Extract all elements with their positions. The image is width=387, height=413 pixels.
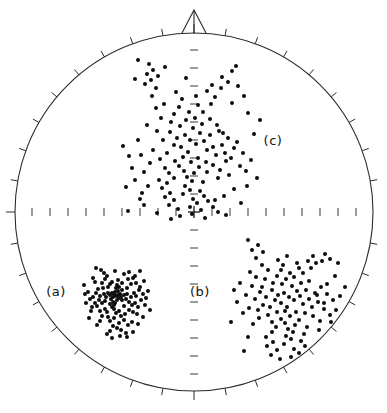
data-point <box>184 118 188 122</box>
data-point <box>121 144 125 148</box>
data-point <box>196 103 200 107</box>
outer-tick <box>284 51 288 57</box>
data-point <box>94 291 98 295</box>
data-point <box>82 283 86 287</box>
data-point <box>236 84 240 88</box>
stereonet-plot-canvas: (a) (b) (c) <box>0 0 387 413</box>
data-point <box>172 198 176 202</box>
data-point <box>301 302 305 306</box>
data-point <box>302 332 306 336</box>
data-point <box>309 266 313 270</box>
data-point <box>284 334 288 338</box>
data-point <box>288 314 292 318</box>
data-point <box>120 298 124 302</box>
outer-tick <box>130 380 132 387</box>
data-point <box>283 321 287 325</box>
outer-tick <box>370 243 377 244</box>
data-point <box>188 188 192 192</box>
data-point <box>251 322 255 326</box>
data-point <box>279 317 283 321</box>
outer-tick <box>255 37 257 44</box>
data-point <box>333 274 337 278</box>
data-point <box>282 291 286 295</box>
data-point <box>232 146 236 150</box>
data-point <box>328 313 332 317</box>
data-point <box>126 209 130 213</box>
outer-tick <box>11 180 18 181</box>
outer-tick <box>309 70 314 75</box>
data-point <box>151 148 155 152</box>
data-point <box>159 116 163 120</box>
data-point <box>111 324 115 328</box>
data-point <box>129 295 133 299</box>
data-point <box>211 145 215 149</box>
data-point <box>266 313 270 317</box>
data-point <box>197 165 201 169</box>
outer-tick <box>225 388 226 395</box>
data-point <box>298 294 302 298</box>
data-point <box>297 266 301 270</box>
data-point <box>172 143 176 147</box>
data-point <box>176 207 180 211</box>
data-point <box>169 120 173 124</box>
outer-tick <box>331 327 336 332</box>
data-point <box>90 305 94 309</box>
data-point <box>134 281 138 285</box>
data-point <box>205 89 209 93</box>
data-point <box>303 311 307 315</box>
data-point <box>188 138 192 142</box>
data-point <box>126 323 130 327</box>
data-point <box>129 282 133 286</box>
data-point <box>89 309 93 313</box>
data-point <box>208 133 212 137</box>
data-point <box>258 290 262 294</box>
data-point <box>250 284 254 288</box>
data-point <box>102 292 106 296</box>
outer-tick <box>331 92 336 97</box>
data-point <box>334 308 338 312</box>
data-point <box>294 310 298 314</box>
data-point <box>123 312 127 316</box>
data-point <box>148 161 152 165</box>
data-point <box>331 298 335 302</box>
outer-tick <box>255 380 257 387</box>
data-point <box>209 102 213 106</box>
data-point <box>328 257 332 261</box>
data-point <box>255 176 259 180</box>
data-point <box>110 336 114 340</box>
data-point <box>154 86 158 90</box>
data-point <box>224 213 228 217</box>
data-point <box>278 357 282 361</box>
data-point <box>226 136 230 140</box>
data-point <box>112 307 116 311</box>
data-point <box>102 271 106 275</box>
data-point <box>261 250 265 254</box>
data-point <box>187 110 191 114</box>
data-point <box>325 282 329 286</box>
data-point <box>276 293 280 297</box>
data-point <box>270 330 274 334</box>
outer-tick <box>225 29 226 36</box>
data-point <box>224 159 228 163</box>
data-point <box>289 337 293 341</box>
data-point <box>127 154 131 158</box>
data-point <box>258 118 262 122</box>
data-point <box>311 254 315 258</box>
data-point <box>160 186 164 190</box>
data-point <box>285 254 289 258</box>
data-point <box>120 281 124 285</box>
data-point <box>186 150 190 154</box>
outer-tick <box>162 29 163 36</box>
data-point <box>275 348 279 352</box>
data-point <box>175 136 179 140</box>
data-point <box>191 126 195 130</box>
data-point <box>239 201 243 205</box>
data-point <box>133 77 137 81</box>
data-point <box>274 325 278 329</box>
data-point <box>163 65 167 69</box>
data-point <box>242 94 246 98</box>
data-point <box>295 289 299 293</box>
data-point <box>323 252 327 256</box>
data-point <box>322 301 326 305</box>
cluster-label-a: (a) <box>46 284 66 299</box>
